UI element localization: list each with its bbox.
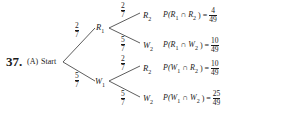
problem-number: 37. <box>6 54 22 70</box>
leaf-r1-r2: R2 P(R1 ∩ R2) = 449 <box>143 7 217 24</box>
node-w1: W1 <box>95 76 105 88</box>
part-label: (A) <box>27 57 38 66</box>
root-start-label: Start <box>41 57 56 66</box>
branch-prob-w1-w2: 57 <box>121 90 125 107</box>
leaf-w1-r2: R2 P(W1 ∩ R2) = 1049 <box>143 60 219 77</box>
leaf-w1-w2: W2 P(W1 ∩ W2) = 2549 <box>143 90 220 107</box>
node-r1: R1 <box>96 22 104 34</box>
branch-prob-r1: 27 <box>75 22 79 39</box>
branch-prob-r1-r2: 27 <box>121 2 125 19</box>
branch-prob-r1-w2: 57 <box>121 36 125 53</box>
branch-prob-w1: 57 <box>75 72 79 89</box>
branch-prob-w1-r2: 27 <box>121 55 125 72</box>
leaf-r1-w2: W2 P(R1 ∩ W2) = 1049 <box>143 37 219 54</box>
